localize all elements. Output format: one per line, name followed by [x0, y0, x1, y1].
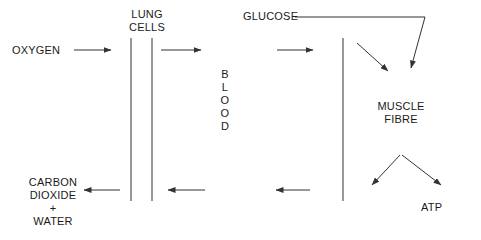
arrow-muscle-to-waste	[372, 155, 400, 185]
label-lung-cells: LUNG CELLS	[110, 8, 184, 34]
label-atp: ATP	[421, 201, 442, 214]
label-muscle-fibre: MUSCLE FIBRE	[365, 100, 437, 126]
label-glucose: GLUCOSE	[243, 10, 298, 23]
label-oxygen: OXYGEN	[12, 44, 60, 57]
arrow-muscle-to-atp	[402, 155, 441, 185]
arrow-oxygen-into-muscle	[357, 43, 388, 71]
label-carbon-dioxide-water: CARBON DIOXIDE + WATER	[12, 176, 94, 228]
arrow-glucose-to-muscle	[295, 17, 425, 68]
label-blood: B L O O D	[218, 68, 232, 133]
respiration-diagram: OXYGEN LUNG CELLS B L O O D GLUCOSE MUSC…	[0, 0, 481, 240]
